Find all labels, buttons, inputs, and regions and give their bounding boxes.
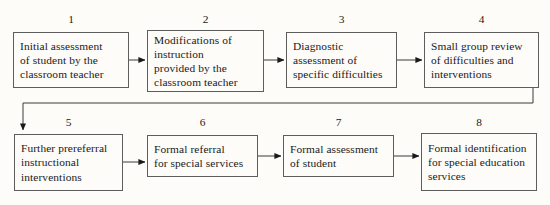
process-box-5-label: Further prereferral instructional interv… <box>21 141 107 184</box>
process-box-5: Further prereferral instructional interv… <box>14 134 123 191</box>
process-box-4-label: Small group review of difficulties and i… <box>431 39 523 82</box>
flowchart-diagram: 1 2 3 4 5 6 7 8 Initial assessment of st… <box>0 0 550 205</box>
step-number-7: 7 <box>283 116 394 128</box>
process-box-3: Diagnostic assessment of specific diffic… <box>286 32 397 88</box>
step-number-8: 8 <box>421 116 537 128</box>
process-box-2-label: Modifications of instruction provided by… <box>154 33 238 90</box>
process-box-8-label: Formal identification for special educat… <box>428 141 527 184</box>
process-box-3-label: Diagnostic assessment of specific diffic… <box>293 39 383 82</box>
process-box-7-label: Formal assessment of student <box>290 142 378 170</box>
step-number-5: 5 <box>14 116 123 128</box>
process-box-2: Modifications of instruction provided by… <box>147 30 264 92</box>
process-box-4: Small group review of difficulties and i… <box>424 32 539 88</box>
step-number-6: 6 <box>147 116 258 128</box>
process-box-6: Formal referral for special services <box>147 135 258 177</box>
step-number-3: 3 <box>286 13 397 25</box>
step-number-4: 4 <box>424 13 539 25</box>
process-box-1-label: Initial assessment of student by the cla… <box>20 39 104 82</box>
process-box-1: Initial assessment of student by the cla… <box>13 32 129 88</box>
step-number-1: 1 <box>13 13 129 25</box>
process-box-8: Formal identification for special educat… <box>421 133 537 191</box>
step-number-2: 2 <box>147 13 264 25</box>
process-box-7: Formal assessment of student <box>283 135 394 177</box>
process-box-6-label: Formal referral for special services <box>154 142 243 170</box>
